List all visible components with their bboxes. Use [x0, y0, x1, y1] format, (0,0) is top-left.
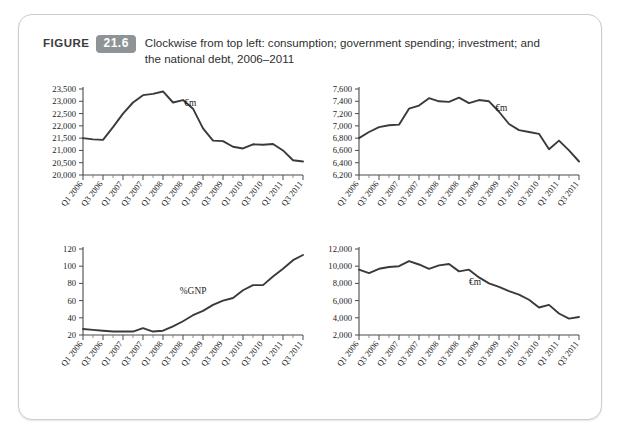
y-tick-label: 23,500 — [52, 84, 76, 94]
chart-investment: 2,0004,0006,0008,00010,00012,000Q1 2006Q… — [309, 237, 589, 397]
series-line-investment — [359, 261, 579, 319]
y-tick-label: 80 — [67, 278, 76, 288]
y-tick-label: 7,200 — [333, 109, 352, 119]
y-tick-label: 10,000 — [328, 261, 352, 271]
figure-panel: FIGURE 21.6 Clockwise from top left: con… — [18, 14, 602, 420]
y-tick-label: 20,500 — [52, 158, 76, 168]
y-tick-label: 6,800 — [333, 133, 352, 143]
y-tick-label: 40 — [67, 313, 76, 323]
y-tick-label: 6,400 — [333, 158, 352, 168]
series-annotation: €m — [184, 98, 197, 108]
chart-government-spending: 6,2006,4006,6006,8007,0007,2007,4007,600… — [309, 77, 589, 237]
figure-label: FIGURE — [43, 35, 89, 49]
y-tick-label: 6,200 — [333, 170, 352, 180]
chart-consumption: 20,00020,50021,00021,50022,00022,50023,0… — [33, 77, 313, 237]
y-tick-label: 2,000 — [333, 330, 352, 340]
x-tick-label: Q3 2011 — [556, 340, 581, 368]
series-annotation: €m — [495, 103, 508, 113]
y-tick-label: 6,000 — [333, 296, 352, 306]
chart-svg-investment: 2,0004,0006,0008,00010,00012,000Q1 2006Q… — [309, 237, 589, 397]
y-tick-label: 20,000 — [52, 170, 76, 180]
x-tick-label: Q3 2011 — [556, 180, 581, 208]
series-annotation: %GNP — [180, 286, 207, 296]
chart-svg-government-spending: 6,2006,4006,6006,8007,0007,2007,4007,600… — [309, 77, 589, 237]
y-tick-label: 7,400 — [333, 96, 352, 106]
y-tick-label: 120 — [63, 244, 76, 254]
y-tick-label: 21,000 — [52, 145, 76, 155]
series-annotation: €m — [469, 277, 482, 287]
chart-svg-national-debt: 20406080100120Q1 2006Q3 2006Q1 2007Q3 20… — [33, 237, 313, 397]
figure-caption-row: FIGURE 21.6 Clockwise from top left: con… — [43, 35, 579, 66]
figure-number-badge: 21.6 — [96, 35, 135, 53]
x-tick-label: Q3 2011 — [280, 340, 305, 368]
y-tick-label: 100 — [63, 261, 76, 271]
series-line-government-spending — [359, 98, 579, 162]
chart-svg-consumption: 20,00020,50021,00021,50022,00022,50023,0… — [33, 77, 313, 237]
y-tick-label: 22,500 — [52, 109, 76, 119]
y-tick-label: 4,000 — [333, 313, 352, 323]
y-tick-label: 60 — [67, 296, 76, 306]
y-tick-label: 6,600 — [333, 145, 352, 155]
x-tick-label: Q3 2011 — [280, 180, 305, 208]
chart-national-debt: 20406080100120Q1 2006Q3 2006Q1 2007Q3 20… — [33, 237, 313, 397]
figure-caption-text: Clockwise from top left: consumption; go… — [145, 35, 545, 66]
y-tick-label: 22,000 — [52, 121, 76, 131]
y-tick-label: 23,000 — [52, 96, 76, 106]
y-tick-label: 20 — [67, 330, 76, 340]
y-tick-label: 7,000 — [333, 121, 352, 131]
y-tick-label: 21,500 — [52, 133, 76, 143]
y-tick-label: 12,000 — [328, 244, 352, 254]
y-tick-label: 8,000 — [333, 278, 352, 288]
y-tick-label: 7,600 — [333, 84, 352, 94]
